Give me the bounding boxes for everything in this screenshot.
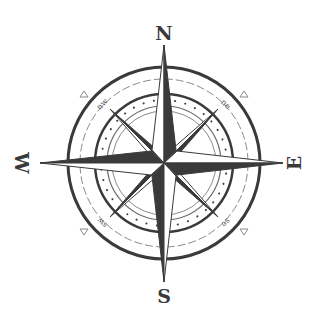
compass-rose: N S W E nw ne sw se bbox=[0, 0, 325, 328]
label-northwest: nw bbox=[95, 97, 110, 112]
label-southeast: se bbox=[219, 216, 232, 229]
point-west-dark bbox=[40, 151, 164, 163]
label-northeast: ne bbox=[219, 98, 233, 112]
label-southwest: sw bbox=[95, 216, 109, 230]
label-west: W bbox=[11, 151, 33, 174]
triangle-sw-icon bbox=[80, 229, 88, 235]
triangle-nw-icon bbox=[80, 91, 88, 97]
triangle-ne-icon bbox=[240, 91, 248, 97]
label-north: N bbox=[155, 22, 172, 44]
point-west-light bbox=[40, 163, 164, 175]
point-south-light bbox=[164, 163, 176, 282]
cardinal-points bbox=[40, 45, 283, 282]
point-east-light bbox=[164, 151, 283, 163]
label-south: S bbox=[157, 285, 171, 307]
point-south-dark bbox=[152, 163, 164, 282]
point-east-dark bbox=[164, 163, 283, 175]
point-north-light bbox=[152, 45, 164, 163]
point-north-dark bbox=[164, 45, 176, 163]
label-east: E bbox=[283, 156, 305, 170]
triangle-se-icon bbox=[240, 229, 248, 235]
